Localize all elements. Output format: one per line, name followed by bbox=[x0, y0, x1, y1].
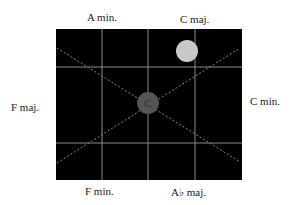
center-chord-label: C bbox=[144, 97, 151, 109]
diagram-canvas: C bbox=[0, 0, 294, 205]
highlighted-chord-node[interactable] bbox=[176, 40, 198, 62]
